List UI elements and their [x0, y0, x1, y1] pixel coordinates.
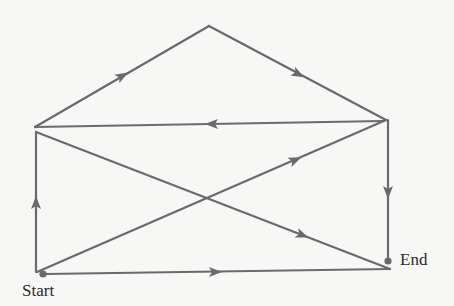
- start-dot-icon: [39, 270, 46, 277]
- arrow-up-right-icon: [288, 153, 304, 167]
- start-label: Start: [22, 282, 54, 299]
- arrow-up-left-icon: [295, 228, 311, 242]
- end-label: End: [400, 251, 427, 268]
- arrow-up-right-icon: [114, 68, 130, 83]
- edges: [35, 26, 390, 274]
- end-dot-icon: [384, 257, 391, 264]
- arrow-down-right-icon: [290, 67, 306, 82]
- edge-start-to-top-right: [37, 120, 386, 272]
- path-diagram: [0, 0, 454, 306]
- node-markers: [39, 257, 391, 277]
